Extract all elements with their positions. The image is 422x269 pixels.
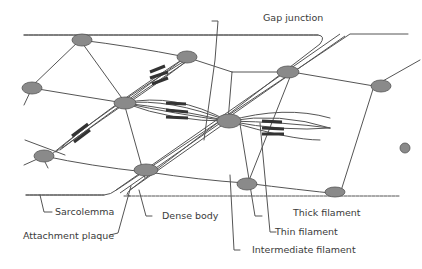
dense-body-node [177,51,197,63]
dense-body-node [371,80,391,92]
dense-body-node [72,34,92,46]
dense-body-node [134,164,158,176]
label-dense-body: Dense body [162,211,219,221]
dense-body-node [237,178,257,190]
dense-body-node [217,114,241,128]
dense-body-node [34,150,54,162]
dense-body-node [325,187,345,197]
label-thick-filament: Thick filament [293,208,361,218]
smooth-muscle-diagram [0,0,422,269]
label-attachment-plaque: Attachment plaque [23,231,114,241]
label-thin-filament: Thin filament [275,227,338,237]
label-intermediate-filament: Intermediate filament [252,245,356,255]
dense-body-node [22,82,42,94]
sarcolemma-top [24,35,323,196]
dense-body-node [400,143,410,153]
label-gap-junction: Gap junction [263,13,323,23]
label-sarcolemma: Sarcolemma [55,207,114,217]
dense-body-node [277,66,299,78]
dense-body-node [114,97,136,109]
sarcolemma-bottom-left [26,34,408,195]
